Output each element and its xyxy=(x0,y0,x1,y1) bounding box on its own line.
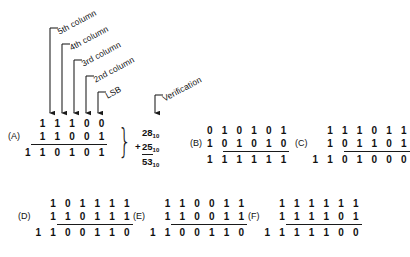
problem-a: (A) 1 1 1 0 0 1 1 0 0 1 1 1 0 1 0 1 xyxy=(8,118,107,160)
problem-c-addend2: 1 0 1 1 0 1 xyxy=(327,138,409,151)
problem-e-sum-block: 1 1 0 0 1 1 1 1 0 0 1 1 1 1 0 0 1 1 0 xyxy=(150,198,247,240)
verification-plus-sign: + xyxy=(135,141,142,154)
problem-c-addend1: 1 1 1 0 1 1 xyxy=(327,125,409,138)
problem-f-addend2: 1 1 1 1 0 1 xyxy=(279,211,361,224)
problem-f-rule xyxy=(286,224,362,225)
verification-addend2-base: 10 xyxy=(153,144,160,157)
problem-a-label: (A) xyxy=(8,118,20,141)
verification-sum-row: 5310 xyxy=(135,155,159,170)
verification-sum-base: 10 xyxy=(153,159,160,172)
problem-d-label: (D) xyxy=(18,198,31,221)
problem-f-sum-block: 1 1 1 1 1 1 1 1 1 1 0 1 1 1 1 1 1 0 0 xyxy=(265,198,362,240)
verification-addend2-row: + 2510 xyxy=(135,141,159,155)
problem-c-rule xyxy=(344,151,410,152)
problem-d-sum: 1 1 0 0 1 1 0 xyxy=(36,227,133,240)
problem-c-sum: 1 1 0 1 0 0 0 xyxy=(313,154,410,167)
problem-b-sum-block: 0 1 0 1 0 1 1 0 1 0 1 0 1 1 1 1 1 1 xyxy=(207,125,289,167)
verification-addend1-base: 10 xyxy=(153,130,160,143)
problem-a-sum: 1 1 0 1 0 1 xyxy=(25,147,107,160)
problem-d-addend2: 1 1 0 1 1 1 xyxy=(50,211,132,224)
verification-addend1: 28 xyxy=(142,127,153,140)
problem-a-sum-block: 1 1 1 0 0 1 1 0 0 1 1 1 0 1 0 1 xyxy=(25,118,107,160)
problem-d-rule xyxy=(57,224,133,225)
problem-e-addend1: 1 1 0 0 1 1 xyxy=(165,198,247,211)
problem-a-rule xyxy=(31,144,107,145)
problem-e-label: (E) xyxy=(133,198,145,221)
verification-addend1-row: 2810 xyxy=(135,127,159,141)
problem-b-label: (B) xyxy=(190,125,202,148)
problem-f: (F) 1 1 1 1 1 1 1 1 1 1 0 1 1 1 1 1 1 0 … xyxy=(248,198,362,240)
problem-d: (D) 1 0 1 1 1 1 1 1 0 1 1 1 1 1 0 0 1 1 … xyxy=(18,198,133,240)
grouping-brace: } xyxy=(118,124,131,158)
problem-f-label: (F) xyxy=(248,198,260,221)
problem-a-addend2: 1 1 0 0 1 xyxy=(40,131,108,144)
problem-b-addend2: 1 0 1 0 1 0 xyxy=(207,138,289,151)
problem-f-sum: 1 1 1 1 1 0 0 xyxy=(265,227,362,240)
problem-e: (E) 1 1 0 0 1 1 1 1 0 0 1 1 1 1 0 0 1 1 … xyxy=(133,198,247,240)
problem-e-addend2: 1 1 0 0 1 1 xyxy=(165,211,247,224)
verification-sum: 53 xyxy=(142,156,153,169)
problem-e-sum: 1 1 0 0 1 1 0 xyxy=(150,227,247,240)
problem-c-label: (C) xyxy=(295,125,308,148)
problem-c-sum-block: 1 1 1 0 1 1 1 0 1 1 0 1 1 1 0 1 0 0 0 xyxy=(313,125,410,167)
problem-f-addend1: 1 1 1 1 1 1 xyxy=(279,198,361,211)
problem-d-sum-block: 1 0 1 1 1 1 1 1 0 1 1 1 1 1 0 0 1 1 0 xyxy=(36,198,133,240)
problem-b-addend1: 0 1 0 1 0 1 xyxy=(207,125,289,138)
verification-block: 2810 + 2510 5310 xyxy=(135,127,159,169)
problem-b: (B) 0 1 0 1 0 1 1 0 1 0 1 0 1 1 1 1 1 1 xyxy=(190,125,289,167)
verification-addend2: 25 xyxy=(142,141,153,155)
problem-c: (C) 1 1 1 0 1 1 1 0 1 1 0 1 1 1 0 1 0 0 … xyxy=(295,125,410,167)
problem-d-addend1: 1 0 1 1 1 1 xyxy=(50,198,132,211)
problem-b-sum: 1 1 1 1 1 1 xyxy=(207,154,289,167)
problem-b-rule xyxy=(223,151,289,152)
problem-a-addend1: 1 1 1 0 0 xyxy=(40,118,108,131)
problem-e-rule xyxy=(171,224,247,225)
